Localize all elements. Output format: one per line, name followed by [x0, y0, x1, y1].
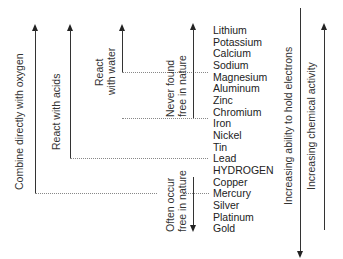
often-free-label-2: free in nature: [177, 170, 189, 232]
element-hydrogen: HYDROGEN: [213, 165, 274, 177]
element-list: Lithium Potassium Calcium Sodium Magnesi…: [213, 25, 274, 235]
element-zinc: Zinc: [213, 95, 274, 107]
element-nickel: Nickel: [213, 130, 274, 142]
often-free-label-1: Often occur: [165, 178, 177, 232]
acids-label: React with acids: [51, 74, 63, 150]
element-sodium: Sodium: [213, 60, 274, 72]
element-gold: Gold: [213, 223, 274, 235]
chemical-activity-label: Increasing chemical activity: [306, 62, 318, 190]
hold-electrons-label: Increasing ability to hold electrons: [283, 47, 295, 205]
never-free-label-1: Never found: [165, 60, 177, 117]
oxygen-label: Combine directly with oxygen: [14, 53, 26, 190]
arrow-down-icon: [190, 225, 196, 232]
water-label-1: React: [94, 59, 106, 86]
never-free-label-2: free in nature: [177, 55, 189, 117]
water-label-2: with water: [106, 48, 118, 95]
element-silver: Silver: [213, 200, 274, 212]
arrow-down-icon: [297, 251, 303, 258]
element-lithium: Lithium: [213, 25, 274, 37]
